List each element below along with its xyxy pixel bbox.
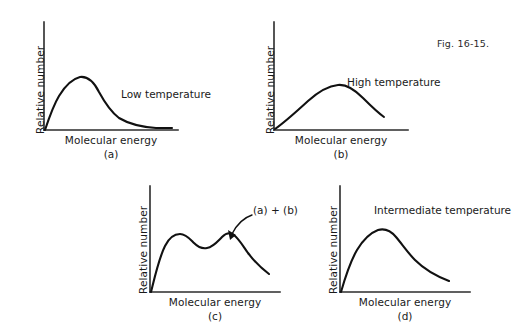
panel-a-distribution-curve	[45, 77, 172, 130]
panel-d-distribution-curve	[341, 229, 449, 292]
panel-a-y-axis-label: Relative number	[34, 46, 46, 134]
panel-b-x-axis-label: Molecular energy	[274, 134, 408, 146]
panel-d-curve-annotation: Intermediate temperature	[374, 204, 511, 216]
panel-c-x-axis-label: Molecular energy	[150, 296, 280, 308]
panel-d: Relative number Intermediate temperature…	[318, 182, 528, 323]
panel-a-x-axis-label: Molecular energy	[44, 134, 178, 146]
panel-b-curve-annotation: High temperature	[347, 76, 440, 88]
panel-c-annotation-arrow-line	[232, 215, 252, 234]
panel-c-annotation-arrow-head	[228, 230, 236, 240]
panel-a-letter: (a)	[44, 148, 178, 160]
figure-container: Relative number Low temperature Molecula…	[0, 0, 532, 323]
figure-caption: Fig. 16-15.	[437, 38, 489, 49]
panel-c: Relative number (a) + (b) Molecular ener…	[128, 182, 328, 323]
panel-b-letter: (b)	[274, 148, 408, 160]
panel-a-curve-annotation: Low temperature	[121, 88, 211, 100]
panel-c-sum-annotation: (a) + (b)	[253, 204, 298, 216]
panel-d-y-axis-label: Relative number	[327, 206, 339, 294]
panel-c-letter: (c)	[150, 310, 280, 322]
panel-b: Relative number High temperature Molecul…	[250, 14, 450, 164]
panel-d-x-axis-label: Molecular energy	[340, 296, 470, 308]
panel-a: Relative number Low temperature Molecula…	[20, 14, 220, 164]
panel-b-y-axis-label: Relative number	[264, 46, 276, 134]
panel-b-distribution-curve	[275, 85, 384, 129]
panel-d-letter: (d)	[340, 310, 470, 322]
panel-c-y-axis-label: Relative number	[137, 206, 149, 294]
panel-c-sum-curve	[151, 233, 269, 292]
